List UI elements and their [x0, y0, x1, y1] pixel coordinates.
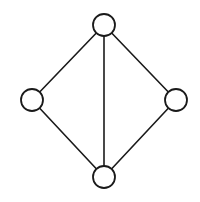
edge-right-bottom — [104, 100, 176, 177]
graph-diagram — [0, 0, 200, 202]
node-right — [165, 89, 187, 111]
node-left — [21, 89, 43, 111]
edge-top-left — [32, 25, 104, 100]
edge-top-right — [104, 25, 176, 100]
edge-left-bottom — [32, 100, 104, 177]
node-top — [93, 14, 115, 36]
edge-group — [32, 25, 176, 177]
node-bottom — [93, 166, 115, 188]
